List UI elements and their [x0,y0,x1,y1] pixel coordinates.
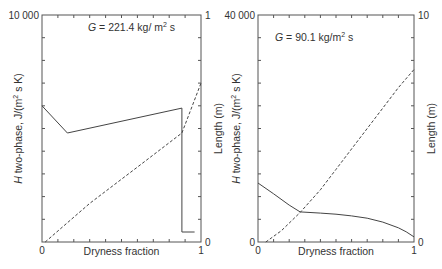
mass-flux-annotation: G = 90.1 kg/m2 s [275,31,353,43]
length-curve [45,83,201,242]
chart-canvas: 0110 00010Dryness fractionH two-phase, J… [0,0,442,269]
mass-flux-annotation: G = 221.4 kg/ m2 s [88,21,175,33]
chart-panel-1: 0110 00010Dryness fractionH two-phase, J… [8,10,224,257]
y-axis-label: H two-phase, J/(m2 s K) [12,73,24,184]
y2-tick-label-max: 1 [205,10,211,21]
y-axis-label: H two-phase, J/(m2 s K) [230,73,242,184]
y-tick-label-min: 0 [249,237,255,248]
x-axis-label: Dryness fraction [298,245,374,257]
x-tick-label-max: 1 [198,245,204,256]
y-tick-label-max: 40 000 [224,10,255,21]
plot-frame [258,15,414,242]
length-curve [266,70,414,243]
y2-axis-label: Length (m) [212,103,224,154]
y2-tick-label-min: 0 [205,237,211,248]
y-tick-label-max: 10 000 [8,10,39,21]
y2-axis-label: Length (m) [425,103,437,154]
heat-transfer-curve [258,183,414,237]
x-tick-label-min: 0 [39,245,45,256]
y2-tick-label-min: 0 [418,237,424,248]
x-tick-label-min: 0 [255,245,261,256]
y2-tick-label-max: 10 [418,10,430,21]
x-axis-label: Dryness fraction [84,245,160,257]
plot-frame [42,15,201,242]
x-tick-label-max: 1 [411,245,417,256]
chart-panel-2: 0140 0000100Dryness fractionH two-phase,… [224,10,437,257]
heat-transfer-curve [42,106,195,232]
